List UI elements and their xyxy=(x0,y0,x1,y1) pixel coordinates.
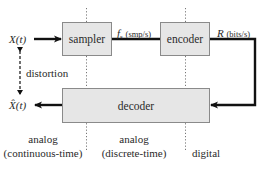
sample-rate-label: fs (smp/s) xyxy=(117,27,151,43)
encoder-label: encoder xyxy=(167,33,203,45)
sampler-block: sampler xyxy=(62,22,112,56)
decoder-block: decoder xyxy=(62,88,210,123)
region-analog-continuous: analog (continuous-time) xyxy=(4,133,83,159)
bit-rate-label: R (bits/s) xyxy=(217,27,250,40)
input-signal-label: X(t) xyxy=(9,33,26,45)
region-analog-discrete: analog (discrete-time) xyxy=(102,133,167,159)
output-signal-label: X̂(t) xyxy=(9,99,26,111)
distortion-label: distortion xyxy=(26,67,68,79)
arrow-encoder-to-decoder xyxy=(210,39,255,105)
sampler-label: sampler xyxy=(69,33,105,45)
decoder-label: decoder xyxy=(118,100,154,112)
source-coding-block-diagram: sampler encoder decoder X(t) X̂(t) fs (s… xyxy=(0,0,263,176)
encoder-block: encoder xyxy=(160,22,210,56)
region-digital: digital xyxy=(192,147,220,159)
